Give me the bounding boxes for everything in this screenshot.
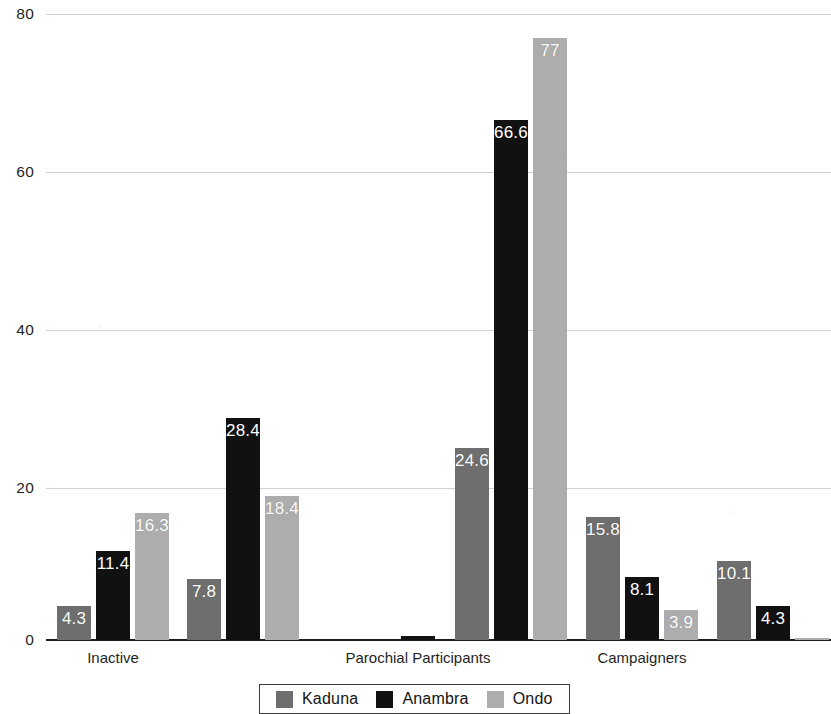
chart-legend: Kaduna Anambra Ondo bbox=[259, 684, 570, 714]
bar-ondo-group6[interactable] bbox=[795, 638, 829, 640]
legend-label-anambra: Anambra bbox=[402, 690, 468, 708]
bar-value-label: 18.4 bbox=[265, 499, 299, 519]
bar-value-label: 3.9 bbox=[669, 613, 693, 633]
bar-anambra-group6[interactable]: 4.3 bbox=[756, 606, 790, 640]
x-axis-label-parochial-participants: Parochial Participants bbox=[345, 649, 490, 666]
y-tick-20: 20 bbox=[0, 479, 34, 497]
bar-anambra-group5[interactable]: 8.1 bbox=[625, 577, 659, 640]
plot-area: 4.311.416.37.828.418.424.666.67715.88.13… bbox=[46, 14, 831, 640]
bar-value-label: 15.8 bbox=[586, 520, 620, 540]
bar-ondo-group5[interactable]: 3.9 bbox=[664, 610, 698, 640]
bar-value-label: 4.3 bbox=[62, 609, 86, 629]
legend-item-ondo[interactable]: Ondo bbox=[487, 690, 553, 708]
gridline-60 bbox=[46, 172, 831, 173]
y-tick-0: 0 bbox=[0, 631, 34, 649]
bar-value-label: 28.4 bbox=[226, 421, 260, 441]
bar-value-label: 24.6 bbox=[455, 451, 489, 471]
bar-kaduna-group4[interactable]: 24.6 bbox=[455, 448, 489, 640]
bar-value-label: 10.1 bbox=[717, 564, 751, 584]
x-axis-label-inactive: Inactive bbox=[87, 649, 139, 666]
gridline-40 bbox=[46, 330, 831, 331]
legend-label-kaduna: Kaduna bbox=[302, 690, 358, 708]
legend-swatch-ondo bbox=[487, 691, 504, 708]
y-tick-80: 80 bbox=[0, 5, 34, 23]
bar-anambra-group3[interactable] bbox=[401, 636, 435, 640]
bar-value-label: 11.4 bbox=[97, 554, 130, 574]
legend-swatch-kaduna bbox=[276, 691, 293, 708]
legend-label-ondo: Ondo bbox=[513, 690, 553, 708]
bar-anambra-group1[interactable]: 11.4 bbox=[96, 551, 130, 640]
bar-value-label: 16.3 bbox=[135, 516, 169, 536]
bar-ondo-group4[interactable]: 77 bbox=[533, 38, 567, 640]
gridline-80 bbox=[46, 14, 831, 15]
bar-kaduna-group6[interactable]: 10.1 bbox=[717, 561, 751, 640]
bar-value-label: 7.8 bbox=[192, 582, 216, 602]
bar-value-label: 8.1 bbox=[630, 580, 654, 600]
legend-swatch-anambra bbox=[376, 691, 393, 708]
bar-kaduna-group2[interactable]: 7.8 bbox=[187, 579, 221, 640]
bar-ondo-group1[interactable]: 16.3 bbox=[135, 513, 169, 640]
y-tick-40: 40 bbox=[0, 321, 34, 339]
gridline-20 bbox=[46, 488, 831, 489]
bar-kaduna-group1[interactable]: 4.3 bbox=[57, 606, 91, 640]
bar-ondo-group2[interactable]: 18.4 bbox=[265, 496, 299, 640]
bar-kaduna-group5[interactable]: 15.8 bbox=[586, 517, 620, 640]
bar-value-label: 4.3 bbox=[761, 609, 785, 629]
bar-anambra-group4[interactable]: 66.6 bbox=[494, 120, 528, 640]
bar-value-label: 77 bbox=[540, 41, 559, 61]
legend-item-anambra[interactable]: Anambra bbox=[376, 690, 468, 708]
legend-item-kaduna[interactable]: Kaduna bbox=[276, 690, 358, 708]
bar-value-label: 66.6 bbox=[494, 123, 528, 143]
bar-anambra-group2[interactable]: 28.4 bbox=[226, 418, 260, 640]
y-tick-60: 60 bbox=[0, 163, 34, 181]
x-axis-label-campaigners: Campaigners bbox=[597, 649, 686, 666]
